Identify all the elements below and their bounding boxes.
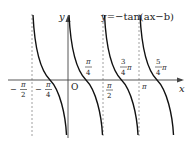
tangent-graph: y x O y=−tan(ax−b) − π 2 − π 4 π 4 π 2 3… — [0, 0, 191, 141]
svg-text:4: 4 — [121, 69, 126, 77]
tick-label-three-quarter-pi: 3 4 π — [120, 58, 132, 77]
svg-text:2: 2 — [107, 92, 111, 100]
tick-label-quarter-pi: π 4 — [85, 58, 92, 77]
tick-label-half-pi: π 2 — [106, 82, 113, 100]
x-axis-arrow-icon — [177, 78, 184, 83]
svg-text:π: π — [45, 81, 51, 89]
svg-text:−: − — [35, 85, 42, 94]
svg-text:2: 2 — [21, 91, 25, 99]
branch-1 — [33, 15, 67, 135]
svg-text:3: 3 — [121, 58, 125, 66]
svg-text:π: π — [126, 64, 132, 72]
y-axis-label: y — [58, 11, 65, 22]
x-axis-label: x — [179, 83, 185, 94]
svg-text:π: π — [161, 64, 167, 72]
origin-label: O — [71, 82, 78, 92]
svg-text:π: π — [85, 58, 91, 66]
svg-text:−: − — [10, 85, 17, 94]
svg-text:4: 4 — [86, 69, 91, 77]
tick-label-neg-half-pi: − π 2 — [10, 81, 27, 99]
svg-text:4: 4 — [46, 91, 51, 99]
tick-label-pi: π — [141, 83, 147, 91]
svg-text:5: 5 — [156, 58, 160, 66]
tick-label-five-quarter-pi: 5 4 π — [155, 58, 167, 77]
svg-text:π: π — [106, 82, 112, 90]
equation-label: y=−tan(ax−b) — [100, 11, 174, 22]
tick-label-neg-quarter-pi: − π 4 — [35, 81, 52, 99]
svg-text:π: π — [20, 81, 26, 89]
svg-text:4: 4 — [156, 69, 161, 77]
